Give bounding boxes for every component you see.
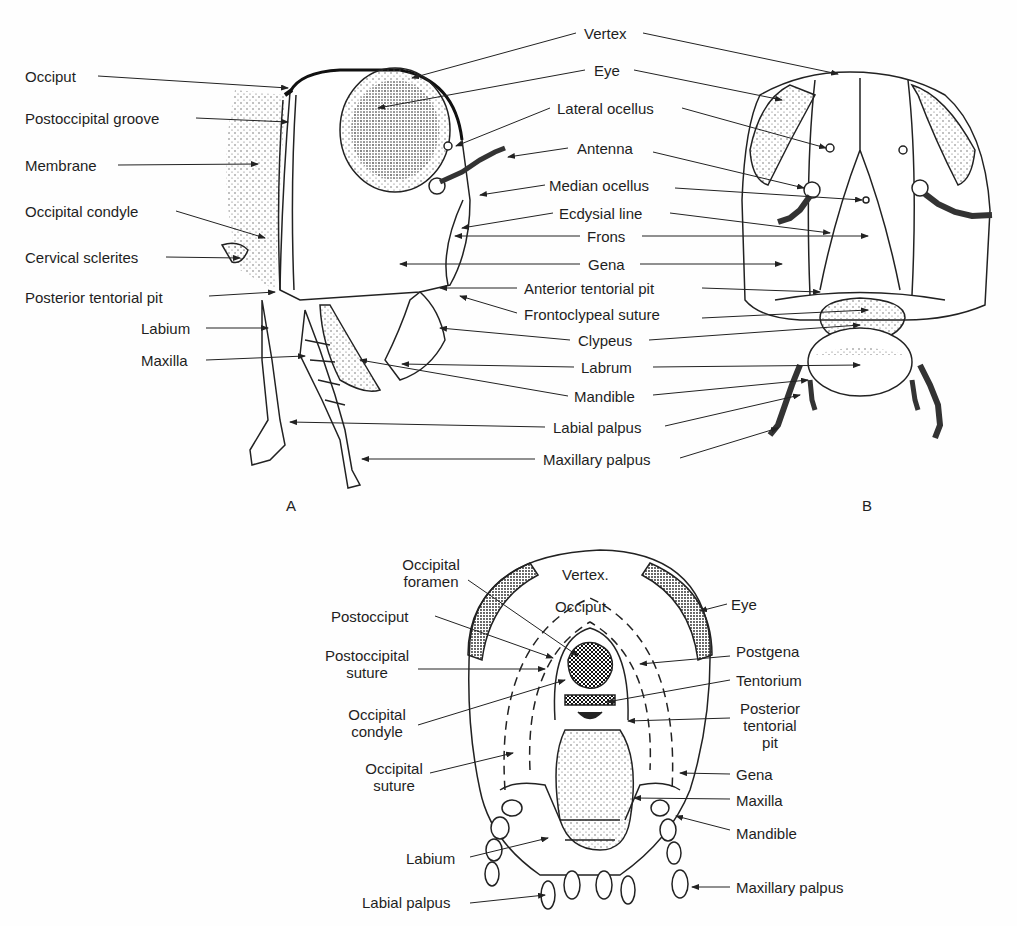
label-clypeus: Clypeus (578, 332, 632, 349)
label-tentorium: Tentorium (736, 672, 802, 689)
panel-label-a: A (286, 497, 296, 514)
label-c-labial-palpus: Labial palpus (362, 894, 450, 911)
label-occipital-suture: Occipital suture (350, 760, 438, 794)
label-cervical-sclerites: Cervical sclerites (25, 249, 138, 266)
label-postocciput: Postocciput (331, 608, 409, 625)
label-frons: Frons (587, 228, 625, 245)
label-membrane: Membrane (25, 157, 97, 174)
insect-head-anatomy-figure: A B Occiput Postoccipital groove Membran… (0, 0, 1017, 926)
label-c-gena: Gena (736, 766, 773, 783)
label-postoccipital-groove: Postoccipital groove (25, 110, 159, 127)
label-posterior-tentorial-pit: Posterior tentorial pit (25, 289, 163, 306)
label-vertex: Vertex (584, 25, 627, 42)
label-anterior-tentorial-pit: Anterior tentorial pit (524, 280, 654, 297)
label-postgena: Postgena (736, 643, 799, 660)
label-c-occipital-condyle: Occipital condyle (333, 706, 421, 740)
label-labium: Labium (141, 320, 190, 337)
label-c-maxilla: Maxilla (736, 792, 783, 809)
label-mandible: Mandible (574, 388, 635, 405)
label-c-mandible: Mandible (736, 825, 797, 842)
label-c-posterior-tentorial-pit: Posterior tentorial pit (730, 700, 810, 751)
label-antenna: Antenna (577, 140, 633, 157)
label-maxillary-palpus: Maxillary palpus (543, 451, 651, 468)
label-occipital-foramen: Occipital foramen (386, 556, 476, 590)
label-postoccipital-suture: Postoccipital suture (312, 647, 422, 681)
label-maxilla: Maxilla (141, 352, 188, 369)
label-ecdysial-line: Ecdysial line (559, 205, 642, 222)
label-c-labium: Labium (406, 850, 455, 867)
label-c-vertex: Vertex. (562, 566, 609, 583)
label-eye: Eye (594, 62, 620, 79)
label-median-ocellus: Median ocellus (549, 177, 649, 194)
label-occipital-condyle: Occipital condyle (25, 203, 138, 220)
label-labrum: Labrum (581, 359, 632, 376)
label-gena: Gena (588, 256, 625, 273)
anatomy-drawings (0, 0, 1017, 926)
label-labial-palpus: Labial palpus (553, 419, 641, 436)
panel-label-b: B (862, 497, 872, 514)
label-occiput: Occiput (25, 68, 76, 85)
label-lateral-ocellus: Lateral ocellus (557, 100, 654, 117)
label-c-occiput: Occiput (555, 598, 606, 615)
label-frontoclypeal-suture: Frontoclypeal suture (524, 306, 660, 323)
label-c-eye: Eye (731, 596, 757, 613)
label-c-maxillary-palpus: Maxillary palpus (736, 879, 844, 896)
